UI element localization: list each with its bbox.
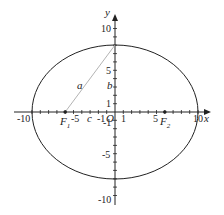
y-tick-label-10: 10 [101,23,111,34]
y-axis-label: y [104,6,110,18]
x-tick-label-1: 1 [121,113,126,124]
x-tick-label-5: 5 [153,113,158,124]
x-tick-label-neg5: -5 [71,113,79,124]
x-tick-label-10: 10 [193,113,203,124]
ellipse-diagram: y x 10 5 1 -1 -5 -10 -10 -5 -1 O 1 5 10 … [0,0,224,215]
y-tick-label-neg5: -5 [102,149,110,160]
focus-f1-label: F1 [59,115,70,130]
focus-f1-point [63,110,67,114]
focus-f2-point [163,110,167,114]
segment-b-label: b [107,79,113,91]
y-tick-label-neg10: -10 [98,194,111,205]
x-axis-label: x [203,112,209,124]
focus-f2-label: F2 [159,115,171,130]
origin-label: O [106,112,114,124]
segment-c-label: c [87,112,92,124]
segment-a-label: a [77,79,83,91]
x-tick-label-neg10: -10 [17,113,30,124]
y-tick-label-1: 1 [106,98,111,109]
y-tick-label-5: 5 [106,65,111,76]
x-tick-label-neg1: -1 [97,113,105,124]
y-axis-arrow-icon [112,14,118,21]
